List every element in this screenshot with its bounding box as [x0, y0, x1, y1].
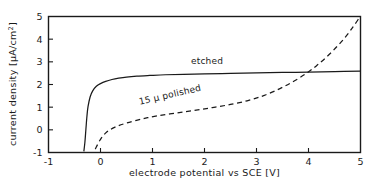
x-tick-label: 1: [149, 156, 155, 167]
y-axis-title-main: current density [µA/cm: [7, 30, 18, 146]
y-tick-label: 4: [36, 34, 42, 45]
chart-figure: -1012345 -1012345 etched15 µ polished el…: [0, 0, 381, 191]
x-axis-title: electrode potential vs SCE [V]: [129, 167, 280, 178]
x-tick-label: 0: [97, 156, 103, 167]
x-tick-label: 5: [357, 156, 363, 167]
curve-etched: [84, 71, 361, 151]
curve-label-15-polished: 15 µ polished: [138, 83, 202, 107]
plot-frame: [49, 17, 361, 153]
x-tick-label: 2: [201, 156, 207, 167]
y-axis-title-bracket: ]: [7, 22, 18, 26]
x-axis-tick-labels: -1012345: [44, 156, 364, 167]
y-axis-title: current density [µA/cm2]: [7, 22, 18, 146]
y-tick-label: 1: [36, 102, 42, 113]
y-axis-tick-labels: -1012345: [33, 11, 42, 158]
x-tick-label: 3: [253, 156, 259, 167]
x-tick-label: 4: [305, 156, 311, 167]
y-tick-label: 5: [36, 11, 42, 22]
y-tick-label: 2: [36, 79, 42, 90]
curve-label-etched: etched: [191, 56, 223, 66]
curve-15-polished: [95, 18, 359, 149]
curve-annotations: etched15 µ polished: [138, 56, 223, 107]
y-tick-label: -1: [33, 147, 42, 158]
y-tick-label: 0: [36, 124, 42, 135]
data-curves: [84, 18, 361, 151]
x-tick-label: -1: [44, 156, 53, 167]
polarization-curve-chart: -1012345 -1012345 etched15 µ polished el…: [0, 0, 381, 191]
y-tick-label: 3: [36, 56, 42, 67]
